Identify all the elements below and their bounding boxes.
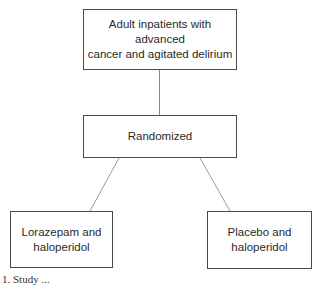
node-arm-b: Placebo and haloperidol bbox=[207, 211, 312, 269]
node-randomized: Randomized bbox=[83, 115, 237, 158]
node-arm-a-line2: haloperidol bbox=[22, 240, 102, 255]
node-arm-a: Lorazepam and haloperidol bbox=[10, 211, 113, 268]
edge-randomized-arm-b bbox=[200, 158, 230, 211]
node-arm-a-line1: Lorazepam and bbox=[22, 225, 102, 240]
node-arm-b-line1: Placebo and bbox=[228, 225, 292, 240]
node-arm-b-line2: haloperidol bbox=[228, 240, 292, 255]
edge-randomized-arm-a bbox=[90, 158, 119, 211]
node-population-line1: Adult inpatients with advanced bbox=[84, 17, 236, 47]
figure-caption: 1. Study ... bbox=[2, 273, 50, 285]
node-population-line2: cancer and agitated delirium bbox=[84, 47, 236, 62]
node-population: Adult inpatients with advanced cancer an… bbox=[83, 9, 237, 70]
node-randomized-label: Randomized bbox=[128, 129, 193, 144]
